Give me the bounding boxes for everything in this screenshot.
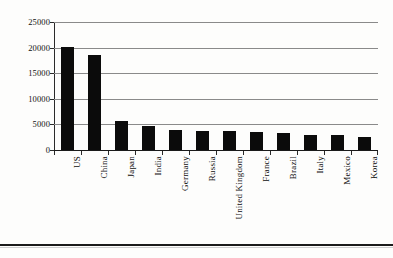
x-tick-label: Russia [207, 156, 217, 181]
x-tick-mark [351, 151, 352, 155]
x-tick-label: Italy [315, 156, 325, 174]
bar [304, 135, 317, 150]
x-tick-mark [377, 151, 378, 155]
gridline-10000 [54, 99, 378, 100]
bar [331, 135, 344, 150]
x-tick-mark [270, 151, 271, 155]
x-tick-label: India [153, 156, 163, 176]
x-tick-mark [162, 151, 163, 155]
x-tick-label: US [72, 156, 82, 168]
y-axis-labels: 0500010000150002000025000 [0, 22, 50, 150]
gridline-15000 [54, 73, 378, 74]
x-tick-mark [54, 151, 55, 155]
footer-rule-secondary [0, 247, 393, 248]
bar [169, 130, 182, 150]
bar [277, 133, 290, 150]
x-tick-label: Brazil [288, 156, 298, 179]
bar [250, 132, 263, 150]
x-tick-mark [108, 151, 109, 155]
chart-figure: 0500010000150002000025000 USChinaJapanIn… [0, 0, 393, 258]
x-tick-label: United Kingdom [234, 156, 244, 220]
y-tick-label: 15000 [4, 69, 50, 78]
x-tick-mark [81, 151, 82, 155]
x-tick-label: Korea [369, 156, 379, 179]
x-tick-mark [135, 151, 136, 155]
plot-area [54, 22, 378, 150]
bar [358, 137, 371, 150]
gridline-20000 [54, 48, 378, 49]
x-tick-label: Japan [126, 156, 136, 178]
x-tick-mark [216, 151, 217, 155]
x-tick-mark [189, 151, 190, 155]
footer-rule [0, 244, 393, 246]
x-tick-mark [243, 151, 244, 155]
y-tick-label: 0 [4, 146, 50, 155]
y-tick-label: 5000 [4, 120, 50, 129]
x-tick-label: Mexico [342, 156, 352, 185]
x-tick-label: China [99, 156, 109, 179]
x-tick-label: France [261, 156, 271, 182]
bar [142, 126, 155, 150]
x-axis-labels: USChinaJapanIndiaGermanyRussiaUnited Kin… [54, 156, 378, 240]
bar [223, 131, 236, 150]
x-tick-mark [324, 151, 325, 155]
y-tick-label: 25000 [4, 18, 50, 27]
bar [88, 55, 101, 150]
gridline-5000 [54, 124, 378, 125]
gridline-25000 [54, 22, 378, 23]
y-tick-label: 10000 [4, 94, 50, 103]
bar [196, 131, 209, 150]
y-tick-label: 20000 [4, 43, 50, 52]
bar [115, 121, 128, 150]
x-tick-label: Germany [180, 156, 190, 191]
x-tick-mark [297, 151, 298, 155]
bar [61, 47, 74, 150]
